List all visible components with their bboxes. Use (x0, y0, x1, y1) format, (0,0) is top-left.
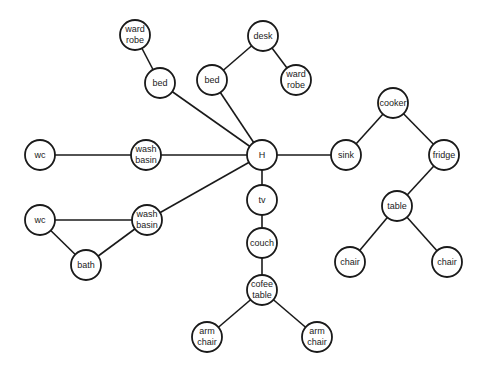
node-label-line: bed (143, 78, 177, 89)
node-label-line: basin (129, 155, 163, 166)
node-label-H: H (245, 150, 279, 161)
nodes-layer (0, 0, 490, 370)
node-label-line: bath (69, 260, 103, 271)
node-label-washbasin1: washbasin (129, 144, 163, 166)
node-label-line: sink (329, 150, 363, 161)
node-label-bed1: bed (143, 78, 177, 89)
node-label-wardrobe1: wardrobe (118, 24, 152, 46)
node-label-line: robe (118, 35, 152, 46)
node-label-line: chair (430, 257, 464, 268)
node-label-line: fridge (427, 150, 461, 161)
node-label-line: arm (300, 326, 334, 337)
node-label-line: wc (23, 215, 57, 226)
node-label-armchair2: armchair (300, 326, 334, 348)
node-label-cooker: cooker (376, 98, 410, 109)
node-label-wc1: wc (23, 150, 57, 161)
node-label-table: table (380, 201, 414, 212)
node-label-line: H (245, 150, 279, 161)
node-label-cofeetable: cofeetable (245, 279, 279, 301)
node-label-line: ward (118, 24, 152, 35)
node-label-line: table (380, 201, 414, 212)
node-label-line: tv (245, 195, 279, 206)
node-label-line: wash (129, 144, 163, 155)
node-label-wc2: wc (23, 215, 57, 226)
node-label-line: ward (279, 69, 313, 80)
node-label-line: arm (190, 326, 224, 337)
node-label-line: wash (130, 209, 164, 220)
node-label-wardrobe2: wardrobe (279, 69, 313, 91)
node-label-chair2: chair (430, 257, 464, 268)
node-label-line: couch (245, 238, 279, 249)
node-label-sink: sink (329, 150, 363, 161)
node-label-chair1: chair (333, 257, 367, 268)
floorplan-graph-diagram: wardrobebeddeskbedwardrobeHwcwashbasinsi… (0, 0, 490, 370)
node-label-bed2: bed (195, 75, 229, 86)
node-label-line: wc (23, 150, 57, 161)
node-label-line: chair (333, 257, 367, 268)
node-label-line: cooker (376, 98, 410, 109)
node-label-line: cofee (245, 279, 279, 290)
node-label-line: robe (279, 80, 313, 91)
node-label-tv: tv (245, 195, 279, 206)
node-label-line: chair (300, 337, 334, 348)
node-label-line: desk (246, 31, 280, 42)
node-label-line: bed (195, 75, 229, 86)
node-label-desk: desk (246, 31, 280, 42)
node-label-washbasin2: washbasin (130, 209, 164, 231)
node-label-line: basin (130, 220, 164, 231)
node-label-bath: bath (69, 260, 103, 271)
node-label-fridge: fridge (427, 150, 461, 161)
node-label-line: table (245, 290, 279, 301)
node-label-line: chair (190, 337, 224, 348)
node-label-couch: couch (245, 238, 279, 249)
node-label-armchair1: armchair (190, 326, 224, 348)
